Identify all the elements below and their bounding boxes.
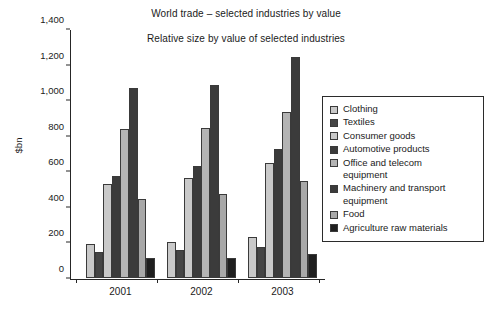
bar (176, 250, 185, 278)
y-tick-mark (66, 100, 70, 101)
y-axis-line (70, 30, 71, 280)
y-tick-label: 600 (48, 156, 70, 167)
bar (300, 181, 309, 278)
y-tick-label: 0 (59, 263, 70, 274)
bar (120, 129, 129, 278)
bar (167, 242, 176, 278)
legend-item: Machinery and transport equipment (330, 182, 478, 207)
y-tick-mark (66, 135, 70, 136)
bar (193, 166, 202, 278)
bar (257, 247, 266, 278)
y-tick-label: 200 (48, 227, 70, 238)
bar (129, 88, 138, 278)
bar (219, 194, 228, 278)
bar (184, 178, 193, 278)
bar (146, 258, 155, 278)
legend-label: Food (343, 208, 365, 220)
bar (95, 252, 104, 278)
legend-item: Clothing (330, 103, 478, 115)
bar-chart: World trade – selected industries by val… (0, 0, 492, 313)
bar (112, 176, 121, 278)
x-tick-mark (319, 279, 320, 283)
bar (103, 184, 112, 278)
y-tick-mark (66, 64, 70, 65)
legend-item: Consumer goods (330, 130, 478, 142)
legend-label: Office and telecom equipment (343, 157, 422, 182)
x-tick-mark (157, 279, 158, 283)
bar (210, 85, 219, 278)
legend-item: Automotive products (330, 143, 478, 155)
bar (201, 128, 210, 278)
bar (248, 237, 257, 278)
x-tick-label: 2002 (190, 286, 212, 297)
y-tick-label: 1,000 (40, 85, 70, 96)
bar (227, 258, 236, 278)
legend-swatch (330, 119, 338, 127)
y-tick-label: 400 (48, 191, 70, 202)
x-axis-line (70, 279, 325, 280)
y-axis-label: $bn (13, 126, 24, 166)
legend-item: Textiles (330, 116, 478, 128)
x-tick-label: 2003 (271, 286, 293, 297)
bar (138, 199, 147, 278)
y-tick-mark (66, 206, 70, 207)
bar (86, 244, 95, 278)
legend-swatch (330, 211, 338, 219)
legend-label: Clothing (343, 103, 378, 115)
x-tick-label: 2001 (109, 286, 131, 297)
legend-swatch (330, 159, 338, 167)
bar (274, 149, 283, 278)
legend-item: Agriculture raw materials (330, 222, 478, 234)
legend-label: Consumer goods (343, 130, 415, 142)
plot-area: 02004006008001,0001,2001,400 20012002200… (70, 30, 320, 279)
y-tick-mark (66, 278, 70, 279)
legend-item: Food (330, 208, 478, 220)
legend-label: Textiles (343, 116, 375, 128)
y-tick-label: 1,200 (40, 49, 70, 60)
y-tick-mark (66, 242, 70, 243)
chart-legend: ClothingTextilesConsumer goodsAutomotive… (322, 96, 484, 242)
y-tick-mark (66, 29, 70, 30)
bar (308, 254, 317, 278)
legend-label: Automotive products (343, 143, 430, 155)
legend-swatch (330, 132, 338, 140)
chart-title: World trade – selected industries by val… (96, 8, 396, 19)
legend-swatch (330, 146, 338, 154)
bar (282, 112, 291, 278)
legend-swatch (330, 106, 338, 114)
y-tick-label: 800 (48, 120, 70, 131)
y-tick-label: 1,400 (40, 14, 70, 25)
legend-swatch (330, 185, 338, 193)
x-tick-mark (238, 279, 239, 283)
x-tick-mark (76, 279, 77, 283)
legend-label: Machinery and transport equipment (343, 182, 445, 207)
bar (265, 163, 274, 278)
legend-label: Agriculture raw materials (343, 222, 448, 234)
bar (291, 57, 300, 278)
y-tick-mark (66, 171, 70, 172)
legend-swatch (330, 224, 338, 232)
legend-item: Office and telecom equipment (330, 157, 478, 182)
